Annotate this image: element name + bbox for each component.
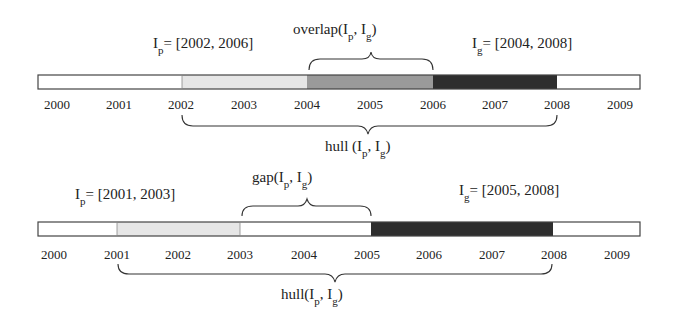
bottom-hull-label: hull(Ip, Ig) xyxy=(281,286,343,307)
bottom-diagram: gap(Ip, Ig) Ip= [2001, 2003] Ig= [2005, … xyxy=(38,169,640,307)
bottom-year-2009: 2009 xyxy=(604,247,630,262)
bottom-year-2008: 2008 xyxy=(541,247,567,262)
top-bar-ip-only xyxy=(182,75,307,89)
top-year-2009: 2009 xyxy=(607,97,633,112)
top-year-2002: 2002 xyxy=(168,97,194,112)
bottom-bar-empty-left xyxy=(38,222,117,236)
bottom-gap-brace xyxy=(242,199,371,216)
bottom-year-2003: 2003 xyxy=(227,247,253,262)
top-overlap-brace xyxy=(309,52,433,70)
top-year-2003: 2003 xyxy=(231,97,257,112)
bottom-ip-label: Ip= [2001, 2003] xyxy=(75,186,175,207)
top-bar-ig-only xyxy=(433,75,557,89)
bottom-bar-gap xyxy=(240,222,371,236)
top-hull-label: hull (Ip, Ig) xyxy=(325,138,391,159)
top-year-2007: 2007 xyxy=(482,97,509,112)
top-bar-overlap xyxy=(307,75,433,89)
bottom-ig-label: Ig= [2005, 2008] xyxy=(459,182,559,203)
top-year-axis: 2000 2001 2002 2003 2004 2005 2006 2007 … xyxy=(44,97,633,112)
top-year-2008: 2008 xyxy=(544,97,570,112)
bottom-gap-label: gap(Ip, Ig) xyxy=(252,169,312,190)
bottom-year-axis: 2000 2001 2002 2003 2004 2005 2006 2007 … xyxy=(41,247,630,262)
top-hull-brace xyxy=(182,115,557,134)
top-ig-label: Ig= [2004, 2008] xyxy=(472,35,572,56)
bottom-year-2000: 2000 xyxy=(41,247,67,262)
bottom-bar-ig xyxy=(371,222,553,236)
top-year-2004: 2004 xyxy=(294,97,321,112)
bottom-year-2004: 2004 xyxy=(291,247,318,262)
top-year-2005: 2005 xyxy=(357,97,383,112)
bottom-year-2006: 2006 xyxy=(416,247,443,262)
top-ip-label: Ip= [2002, 2006] xyxy=(153,35,253,56)
bottom-year-2005: 2005 xyxy=(354,247,380,262)
bottom-year-2007: 2007 xyxy=(479,247,506,262)
top-year-2000: 2000 xyxy=(44,97,70,112)
bottom-bar-empty-right xyxy=(553,222,640,236)
top-bar-empty-left xyxy=(38,75,182,89)
bottom-year-2001: 2001 xyxy=(104,247,130,262)
bottom-bar-ip xyxy=(117,222,240,236)
top-diagram: Ip= [2002, 2006] overlap(Ip, Ig) Ig= [20… xyxy=(38,21,640,159)
interval-diagram: Ip= [2002, 2006] overlap(Ip, Ig) Ig= [20… xyxy=(0,0,675,332)
bottom-hull-brace xyxy=(118,264,552,282)
top-overlap-label: overlap(Ip, Ig) xyxy=(293,21,376,42)
bottom-year-2002: 2002 xyxy=(165,247,191,262)
top-bar-empty-right xyxy=(557,75,640,89)
top-year-2006: 2006 xyxy=(420,97,447,112)
top-year-2001: 2001 xyxy=(106,97,132,112)
